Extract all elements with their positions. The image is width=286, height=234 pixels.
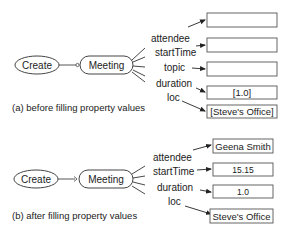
value-box-starttime-b: 15.15: [213, 163, 273, 176]
svg-text:1.0: 1.0: [237, 187, 249, 197]
value-box-starttime-a: [207, 38, 277, 52]
value-box-duration-a: [1.0]: [207, 86, 277, 99]
value-box-duration-b: 1.0: [213, 185, 273, 198]
diagram-canvas: Create Meeting attendee startTime topic …: [0, 0, 286, 234]
meeting-node-label: Meeting: [88, 174, 124, 185]
property-label-loc: loc: [167, 92, 180, 103]
svg-text:Steve's Office: Steve's Office: [212, 211, 270, 222]
property-label-loc: loc: [168, 196, 181, 207]
property-label-attendee: attendee: [153, 152, 192, 163]
property-label-attendee: attendee: [151, 33, 190, 44]
property-label-starttime: startTime: [153, 166, 195, 177]
create-node-label: Create: [22, 60, 52, 71]
create-node-label: Create: [21, 174, 51, 185]
meeting-node-a: Meeting: [80, 56, 133, 74]
fan-lines-a: [132, 48, 145, 82]
caption-a: (a) before filling property values: [12, 102, 145, 113]
panel-a: Create Meeting attendee startTime topic …: [12, 13, 277, 118]
property-label-starttime: startTime: [155, 47, 197, 58]
connector-circle-icon: [76, 63, 79, 66]
svg-text:15.15: 15.15: [232, 165, 254, 175]
panel-b: Create Meeting attendee startTime durati…: [12, 139, 273, 223]
svg-text:[1.0]: [1.0]: [233, 87, 252, 98]
value-box-attendee-b: Geena Smith: [213, 139, 273, 153]
value-box-attendee-a: [207, 13, 277, 27]
value-box-loc-a: [Steve's Office]: [207, 105, 277, 118]
svg-text:[Steve's Office]: [Steve's Office]: [210, 106, 273, 117]
create-node-b: Create: [14, 170, 58, 188]
value-box-topic-a: [207, 62, 277, 76]
property-label-topic: topic: [164, 62, 185, 73]
value-box-loc-b: Steve's Office: [210, 209, 273, 223]
create-node-a: Create: [15, 56, 59, 74]
property-label-duration: duration: [157, 182, 193, 193]
meeting-node-b: Meeting: [79, 170, 133, 188]
caption-b: (b) after filling property values: [12, 210, 137, 221]
property-label-duration: duration: [156, 78, 192, 89]
fan-lines-b: [132, 166, 145, 194]
meeting-node-label: Meeting: [89, 60, 125, 71]
svg-text:Geena Smith: Geena Smith: [215, 141, 270, 152]
